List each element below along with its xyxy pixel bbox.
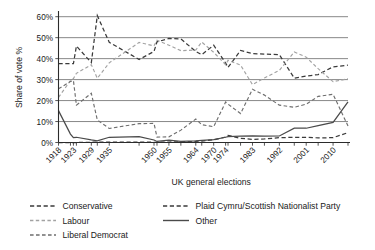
y-axis-tick-labels-group: 0%10%20%30%40%50%60%: [37, 13, 53, 148]
x-tick-label: 1983: [238, 145, 258, 165]
legend: ConservativeLabourLiberal DemocratPlaid …: [30, 201, 341, 240]
series-line: [59, 16, 349, 78]
x-tick-label: 1992: [265, 145, 285, 165]
y-tick-label: 0%: [41, 139, 53, 148]
x-tick-label: 2010: [319, 145, 339, 165]
x-tick-label: 1955: [155, 145, 175, 165]
x-axis-tick-labels-group: 1918192319291935195019551964197019741983…: [44, 145, 338, 165]
x-tick-label: 1923: [59, 145, 79, 165]
series-line: [59, 40, 349, 97]
legend-label: Other: [196, 216, 218, 226]
legend-label: Labour: [63, 216, 90, 226]
y-tick-label: 30%: [37, 76, 53, 85]
y-tick-label: 10%: [37, 118, 53, 127]
data-series-group: [59, 16, 349, 143]
x-tick-label: 1950: [140, 145, 160, 165]
y-tick-label: 20%: [37, 97, 53, 106]
y-tick-label: 60%: [37, 13, 53, 22]
series-line: [59, 133, 349, 143]
legend-label: Plaid Cymru/Scottish Nationalist Party: [196, 201, 341, 211]
y-axis-title: Share of vote %: [14, 47, 24, 109]
legend-label: Liberal Democrat: [63, 230, 129, 240]
x-tick-label: 1935: [95, 145, 115, 165]
y-tick-label: 40%: [37, 55, 53, 64]
x-tick-label: 1929: [77, 145, 97, 165]
vote-share-line-chart: 0%10%20%30%40%50%60% 1918192319291935195…: [0, 0, 375, 250]
gridlines-group: [59, 17, 349, 122]
chart-figure: 0%10%20%30%40%50%60% 1918192319291935195…: [0, 0, 375, 250]
x-tick-label: 2001: [292, 145, 312, 165]
x-axis-title: UK general elections: [172, 177, 251, 187]
legend-label: Conservative: [63, 201, 113, 211]
x-tick-label: 1918: [44, 145, 64, 165]
y-tick-label: 50%: [37, 34, 53, 43]
x-tick-label: 1964: [181, 145, 201, 165]
